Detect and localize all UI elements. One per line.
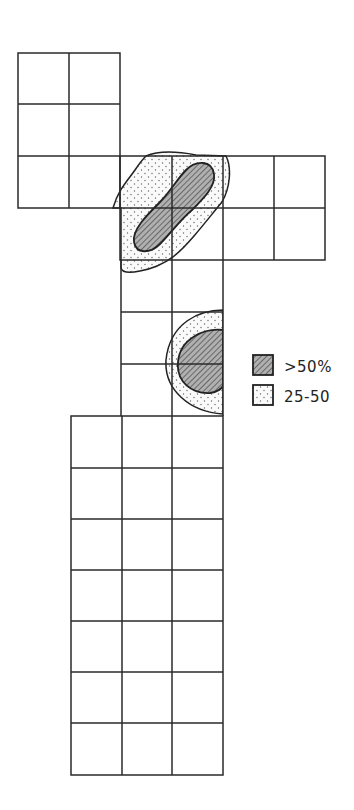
hatched-swatch-icon [253, 355, 273, 375]
grid-diagram: >50% 25-50 [0, 0, 354, 810]
legend-item-25-50: 25-50 [253, 385, 330, 406]
legend: >50% 25-50 [253, 355, 332, 406]
upper-region [113, 152, 229, 272]
lower-region [166, 310, 223, 414]
grid-lines [18, 53, 325, 775]
bottom-block [71, 416, 223, 775]
legend-label-gt50: >50% [284, 358, 332, 376]
dotted-swatch-icon [253, 385, 273, 405]
legend-label-25-50: 25-50 [284, 388, 330, 406]
legend-item-gt50: >50% [253, 355, 332, 376]
